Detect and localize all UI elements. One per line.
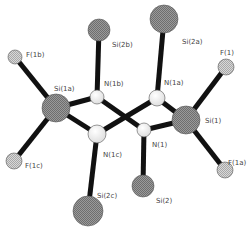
atom-label-si2: Si(2)	[156, 197, 173, 205]
atom-label-si1: Si(1)	[205, 117, 222, 125]
atom-label-n1: N(1)	[152, 141, 167, 149]
atom-label-n1a: N(1a)	[164, 79, 184, 87]
atom-si2	[132, 175, 154, 197]
atom-si2a	[150, 5, 178, 33]
atom-label-f1: F(1)	[220, 49, 234, 57]
bond-n1b-n1	[97, 97, 144, 130]
atom-label-n1b: N(1b)	[104, 80, 124, 88]
atom-label-si1a: Si(1a)	[54, 85, 75, 93]
atom-label-f1a: F(1a)	[228, 159, 247, 167]
molecule-canvas: Si(2b)Si(2a)F(1b)F(1)Si(1a)N(1b)N(1a)Si(…	[0, 0, 250, 233]
atom-n1c	[88, 125, 106, 143]
atom-n1	[137, 123, 151, 137]
atom-label-si2c: Si(2c)	[97, 192, 117, 200]
atom-si2c	[73, 196, 103, 226]
atom-n1b	[90, 90, 104, 104]
molecule-diagram: Si(2b)Si(2a)F(1b)F(1)Si(1a)N(1b)N(1a)Si(…	[0, 0, 250, 233]
atom-si1	[172, 106, 200, 134]
atom-f1c	[6, 153, 22, 169]
atom-si2b	[88, 19, 110, 41]
atom-label-f1b: F(1b)	[26, 51, 45, 59]
atom-f1	[218, 59, 234, 75]
atom-label-f1c: F(1c)	[25, 162, 43, 170]
atom-label-n1c: N(1c)	[103, 151, 122, 159]
atom-n1a	[149, 90, 165, 106]
atom-si1a	[42, 94, 70, 122]
atom-label-si2a: Si(2a)	[182, 38, 203, 46]
atom-f1b	[8, 50, 22, 64]
atom-label-si2b: Si(2b)	[112, 41, 133, 49]
